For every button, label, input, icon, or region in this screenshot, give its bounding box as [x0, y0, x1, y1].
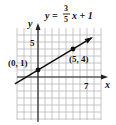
point-5-4 — [71, 47, 76, 52]
chart-title: y = 3 5 x + 1 — [44, 4, 93, 24]
line-arrow-icon — [85, 37, 93, 43]
equation-lhs: y = — [44, 10, 58, 21]
equation-rhs: x + 1 — [71, 10, 93, 21]
y-axis-label: y — [27, 18, 33, 29]
chart-canvas: y x 5 7 (0, 1) (5, 4) y = 3 5 x + 1 — [0, 0, 116, 125]
point-0-1 — [36, 68, 41, 73]
x-tick-label-7: 7 — [84, 81, 89, 91]
x-axis-label: x — [104, 79, 110, 90]
equation-denominator: 5 — [64, 15, 68, 24]
y-axis-arrow-icon — [36, 23, 41, 30]
point-label-5-4: (5, 4) — [69, 54, 89, 64]
point-label-0-1: (0, 1) — [8, 58, 28, 68]
equation-numerator: 3 — [64, 4, 68, 13]
y-tick-label-5: 5 — [30, 38, 35, 48]
